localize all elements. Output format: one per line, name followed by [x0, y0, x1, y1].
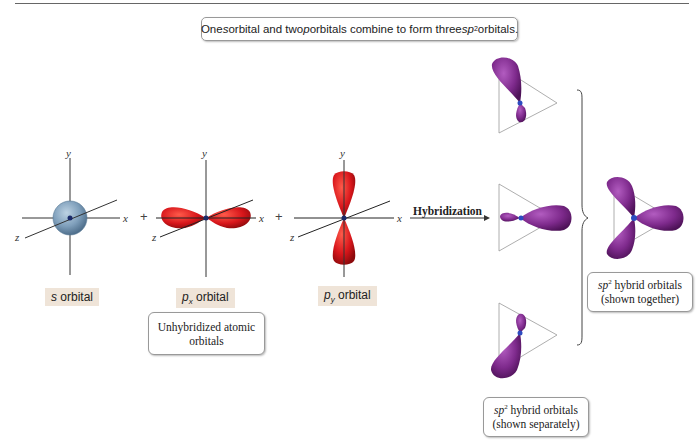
p-symbol: p	[324, 288, 331, 302]
x-axis-label: x	[258, 212, 264, 224]
note-line: sp2 hybrid orbitals	[494, 403, 578, 417]
s-orbital-figure: y x z	[14, 147, 128, 275]
plus-operator: +	[140, 209, 148, 224]
note-line: (shown together)	[601, 292, 679, 306]
s-orbital-label: s orbital	[45, 288, 99, 306]
x-axis-label: x	[396, 212, 402, 224]
plus-operator: +	[275, 209, 283, 224]
sp2-hybrid-combined	[607, 177, 684, 259]
y-axis-label: y	[65, 147, 71, 159]
note-text: hybrid orbitals	[612, 279, 682, 291]
y-axis-label: y	[201, 147, 207, 159]
py-orbital-label: py orbital	[318, 286, 377, 306]
y-axis-label: y	[339, 147, 345, 159]
z-axis-label: z	[151, 231, 157, 243]
note-line: Unhybridized atomic	[158, 320, 255, 334]
hybridization-label: Hybridization	[413, 205, 482, 217]
py-orbital-figure: y x z	[289, 147, 402, 277]
label-text: orbital	[335, 288, 371, 302]
px-orbital-label: px orbital	[176, 288, 235, 308]
note-line: orbitals	[189, 334, 224, 348]
label-text: orbital	[193, 290, 229, 304]
x-axis-label: x	[122, 212, 128, 224]
note-text: hybrid orbitals	[508, 404, 578, 416]
sp2-hybrid-middle	[499, 184, 572, 251]
sp-symbol: sp	[598, 279, 608, 291]
p-symbol: p	[182, 290, 189, 304]
sp2-separately-note: sp2 hybrid orbitals (shown separately)	[483, 397, 589, 437]
z-axis-label: z	[289, 231, 295, 243]
label-text: orbital	[57, 290, 93, 304]
sp2-hybrid-bottom	[491, 303, 557, 378]
z-axis-label: z	[14, 231, 20, 243]
note-line: (shown separately)	[492, 417, 579, 431]
unhybridized-note: Unhybridized atomic orbitals	[148, 312, 265, 355]
orbital-diagram: y x z y x z y x z	[0, 0, 699, 446]
sp2-hybrid-top	[492, 57, 557, 133]
sp2-together-note: sp2 hybrid orbitals (shown together)	[587, 272, 693, 312]
px-orbital-figure: y x z	[151, 147, 264, 277]
sp-symbol: sp	[494, 404, 504, 416]
note-line: sp2 hybrid orbitals	[598, 278, 682, 292]
